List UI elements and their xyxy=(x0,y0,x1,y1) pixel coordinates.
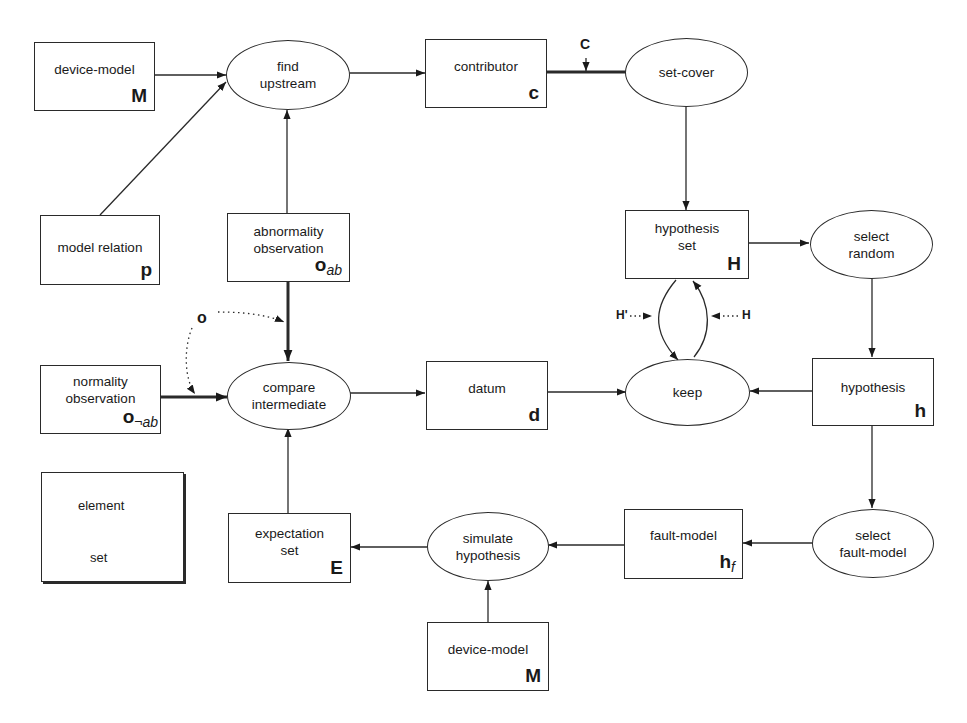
node-label: datum xyxy=(427,380,547,397)
node-label: expectationset xyxy=(229,525,350,559)
node-symbol: M xyxy=(131,85,147,107)
node-label-line2: upstream xyxy=(260,76,316,91)
edge-o-dotted-abnormality xyxy=(218,312,284,322)
legend-element-label: element xyxy=(78,498,124,513)
edge-hypothesisset-keep xyxy=(659,280,678,360)
node-symbol: M xyxy=(525,665,541,687)
node-select-fault-model: selectfault-model xyxy=(812,509,934,578)
node-symbol: d xyxy=(528,404,540,426)
node-hypothesis-set: hypothesisset H xyxy=(625,210,749,279)
node-label: hypothesisset xyxy=(626,220,748,254)
node-datum: datum d xyxy=(426,361,548,430)
edge-label-o: o xyxy=(197,309,207,327)
node-symbol: h xyxy=(914,400,926,422)
node-fault-model: fault-model hf xyxy=(624,509,743,579)
node-symbol: H xyxy=(727,253,741,275)
node-symbol: p xyxy=(140,259,152,281)
node-symbol: hf xyxy=(720,551,736,575)
node-label: hypothesis xyxy=(813,379,933,396)
node-normality-observation: normalityobservation o¬ab xyxy=(40,365,161,434)
node-label: device-model xyxy=(35,61,154,78)
legend-set-label: set xyxy=(90,550,107,565)
edge-o-dotted-normality xyxy=(186,328,195,394)
edge-label-h-prime: H' xyxy=(616,308,628,322)
edge-label-h: H xyxy=(742,308,751,322)
node-model-relation: model relation p xyxy=(40,215,160,285)
node-label: device-model xyxy=(428,641,548,658)
node-label: contributor xyxy=(426,58,546,75)
node-label: fault-model xyxy=(625,527,742,544)
node-symbol: c xyxy=(528,82,539,104)
node-contributor: contributor c xyxy=(425,39,547,108)
node-set-cover: set-cover xyxy=(625,38,748,107)
inference-structure-diagram: device-model M findupstream contributor … xyxy=(0,0,967,723)
edge-label-c: C xyxy=(580,36,590,52)
node-symbol: E xyxy=(330,557,343,579)
node-simulate-hypothesis: simulatehypothesis xyxy=(427,512,549,581)
node-device-model-bottom: device-model M xyxy=(427,622,549,691)
edge-keep-hypothesisset xyxy=(693,281,707,357)
node-expectation-set: expectationset E xyxy=(228,513,351,583)
node-keep: keep xyxy=(625,359,750,426)
node-label: abnormalityobservation xyxy=(228,223,349,257)
node-hypothesis: hypothesis h xyxy=(812,358,934,426)
node-label: model relation xyxy=(41,239,159,256)
node-symbol: o¬ab xyxy=(123,406,158,430)
node-label-line1: find xyxy=(277,59,299,74)
node-label: normalityobservation xyxy=(41,373,160,407)
node-symbol: oab xyxy=(315,254,342,278)
node-label: set-cover xyxy=(659,64,715,81)
node-abnormality-observation: abnormalityobservation oab xyxy=(227,213,350,282)
node-device-model-top: device-model M xyxy=(34,42,155,111)
legend: element set xyxy=(41,472,184,582)
node-select-random: selectrandom xyxy=(810,210,933,279)
node-find-upstream: findupstream xyxy=(226,40,350,110)
node-compare-intermediate: compareintermediate xyxy=(227,362,351,430)
